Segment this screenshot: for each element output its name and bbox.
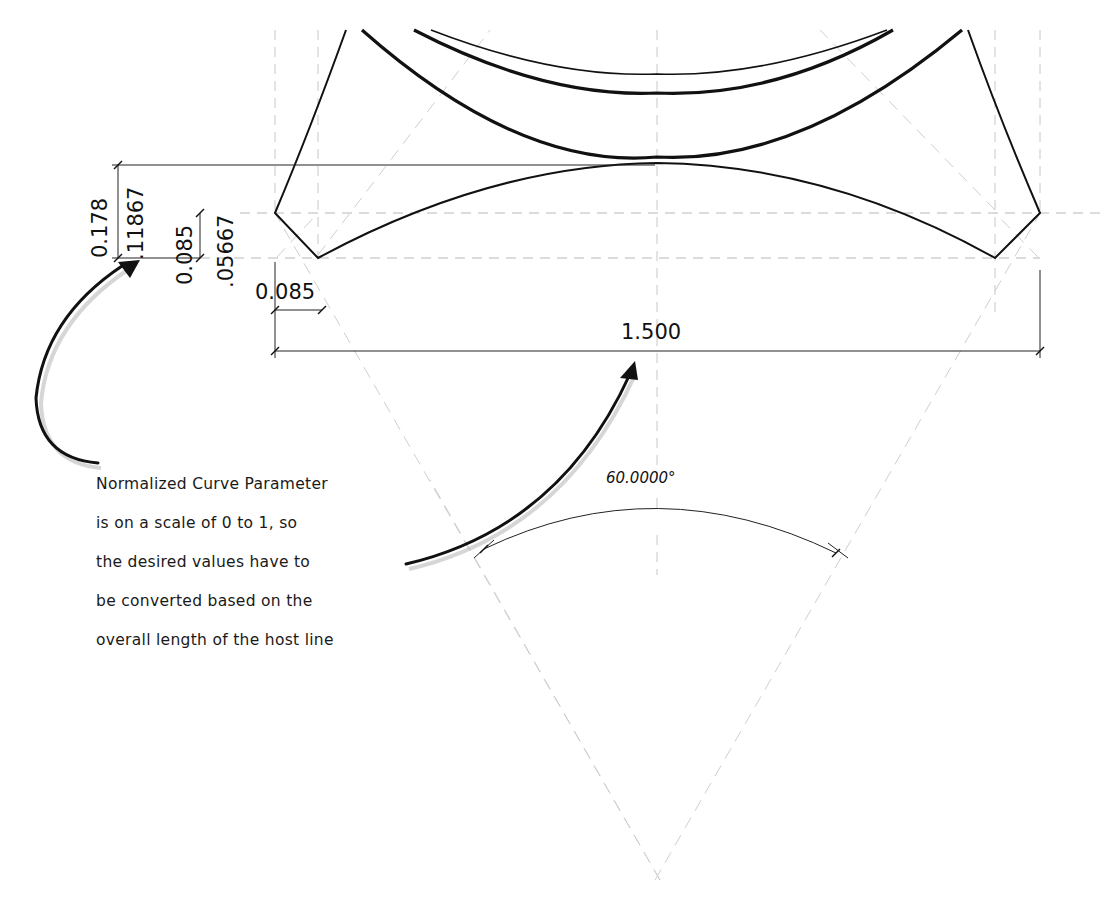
dim-label-0178: 0.178 <box>88 198 112 258</box>
note-line: is on a scale of 0 to 1, so <box>96 514 426 534</box>
top-arcs <box>362 30 962 158</box>
construction-line-left-2 <box>430 480 660 880</box>
annotation-note: Normalized Curve Parameter is on a scale… <box>96 455 426 670</box>
dim-label-angle: 60.0000° <box>606 469 676 487</box>
arrowhead-right-icon <box>620 361 638 380</box>
dim-label-11867: .11867 <box>124 187 148 260</box>
technical-drawing: 0.178 .11867 0.085 .05667 0.085 1.500 60… <box>0 0 1105 902</box>
note-line: the desired values have to <box>96 553 426 573</box>
dim-label-0085-vertical: 0.085 <box>173 225 197 285</box>
construction-diag-right <box>820 30 995 210</box>
leader-arrow-right <box>406 374 630 564</box>
dim-label-05667: .05667 <box>214 215 238 288</box>
construction-line-right <box>655 213 1040 880</box>
dim-label-0085-horizontal: 0.085 <box>255 280 315 304</box>
note-line: Normalized Curve Parameter <box>96 475 426 495</box>
dim-label-1500: 1.500 <box>621 320 681 344</box>
angle-dim-arc <box>484 508 836 553</box>
middle-arc <box>414 30 893 93</box>
note-line: be converted based on the <box>96 592 426 612</box>
note-line: overall length of the host line <box>96 631 426 651</box>
